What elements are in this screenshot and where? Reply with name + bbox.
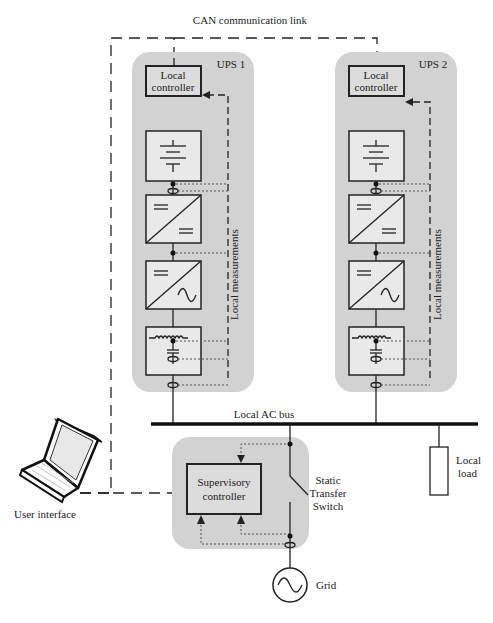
- ups-2-label: UPS 2: [419, 58, 447, 70]
- svg-text:controller: controller: [152, 81, 195, 93]
- svg-text:Supervisory: Supervisory: [197, 476, 251, 488]
- svg-text:Local: Local: [160, 69, 185, 81]
- svg-text:controller: controller: [203, 490, 246, 502]
- supervisory-panel: Supervisory controller: [172, 437, 309, 549]
- ups-2-measurements-label: Local measurements: [431, 229, 443, 320]
- lc-filter-icon: [349, 327, 404, 375]
- ups-system-diagram: CAN communication link UPS 1 Local contr…: [0, 0, 493, 623]
- svg-text:load: load: [458, 467, 477, 479]
- lc-filter-icon: [146, 327, 201, 375]
- can-link-title: CAN communication link: [193, 14, 308, 26]
- local-load: Local load: [430, 424, 481, 495]
- battery-icon: [146, 131, 201, 181]
- svg-text:Local: Local: [456, 454, 481, 466]
- grid-source: Grid: [273, 568, 337, 602]
- svg-text:Local: Local: [363, 69, 388, 81]
- svg-text:controller: controller: [355, 81, 398, 93]
- local-ac-bus-label: Local AC bus: [234, 408, 295, 420]
- svg-text:Switch: Switch: [313, 500, 344, 512]
- ups-1-label: UPS 1: [217, 58, 245, 70]
- ups-1-measurements-label: Local measurements: [228, 229, 240, 320]
- supervisory-controller: [187, 464, 261, 514]
- svg-text:Static: Static: [315, 474, 340, 486]
- grid-label: Grid: [316, 579, 337, 591]
- user-interface-label: User interface: [14, 508, 76, 520]
- ups-2-panel: UPS 2 Local controller Local measurement…: [335, 52, 457, 424]
- svg-text:Transfer: Transfer: [310, 487, 347, 499]
- laptop-icon: [20, 419, 102, 502]
- ups-1-panel: UPS 1 Local controller Local measurement…: [132, 52, 254, 424]
- battery-icon: [349, 131, 404, 181]
